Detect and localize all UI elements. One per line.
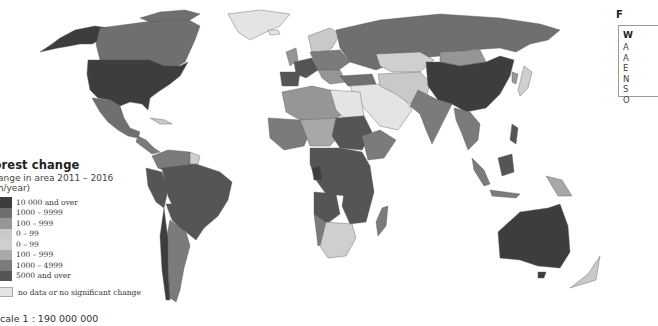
legend-swatch (0, 197, 13, 208)
legend-list: 10 000 and over 1000 – 9999 100 – 999 0 … (0, 197, 186, 281)
side-panel-title: F (616, 9, 623, 20)
legend-title: Forest change (0, 158, 186, 172)
region-java (490, 190, 520, 198)
legend-swatch (0, 271, 13, 282)
region-southeast-asia (454, 108, 480, 150)
region-tasmania (538, 272, 546, 278)
region-canada-islands (140, 10, 200, 22)
region-japan (518, 66, 532, 96)
legend-swatch (0, 229, 13, 240)
legend-item-label: 1000 – 9999 (16, 208, 63, 217)
legend-item: 1000 – 4999 (0, 260, 186, 271)
legend-subtitle-line1: Change in area 2011 – 2016 (0, 173, 186, 183)
legend-item: 1000 – 9999 (0, 208, 186, 219)
legend-item-label: 100 – 999 (16, 250, 53, 259)
legend-swatch (0, 250, 13, 261)
legend-item-label: 0 – 99 (16, 229, 39, 238)
side-panel-item: A (623, 42, 658, 53)
region-gabon (312, 166, 322, 180)
legend-item-label: 0 – 99 (16, 240, 39, 249)
legend-item: 100 – 999 (0, 218, 186, 229)
side-panel-item: O (623, 95, 658, 106)
legend-item: 10 000 and over (0, 197, 186, 208)
region-greenland (228, 10, 290, 40)
region-ethiopia-horn (362, 130, 396, 160)
legend-item: 0 – 99 (0, 239, 186, 250)
legend-item: 5000 and over (0, 271, 186, 282)
legend-item-label: 10 000 and over (16, 198, 78, 207)
legend-item-label: 100 – 999 (16, 219, 53, 228)
region-png (546, 176, 572, 196)
region-southern-africa (320, 222, 356, 258)
region-madagascar (376, 206, 388, 236)
region-iceland (268, 30, 280, 35)
legend-swatch (0, 218, 13, 229)
side-panel-item: E (623, 63, 658, 74)
legend-swatch (0, 208, 13, 219)
region-east-africa (342, 166, 374, 224)
legend-subtitle-line2: (km/year) (0, 183, 186, 193)
region-caribbean (150, 118, 172, 124)
region-kazakhstan (376, 52, 434, 72)
legend-no-data-label: no data or no significant change (18, 288, 141, 297)
region-korea (512, 72, 518, 84)
legend-item: 0 – 99 (0, 229, 186, 240)
legend-item: 100 – 999 (0, 250, 186, 261)
region-iberia (280, 72, 300, 86)
side-panel-item: S (623, 84, 658, 95)
map-scale: Scale 1 : 190 000 000 (0, 313, 98, 324)
region-guianas (190, 152, 200, 164)
region-new-zealand (570, 256, 600, 288)
legend-item-label: 1000 – 4999 (16, 261, 63, 270)
map-legend: Forest change Change in area 2011 – 2016… (0, 158, 186, 297)
region-philippines (510, 124, 518, 144)
region-sumatra (472, 158, 490, 186)
region-australia (498, 204, 570, 268)
legend-item-label: 5000 and over (16, 271, 71, 280)
side-panel-item: A (623, 53, 658, 64)
region-borneo (498, 154, 514, 176)
legend-no-data: no data or no significant change (0, 287, 186, 297)
legend-swatch-no-data (0, 287, 13, 297)
legend-swatch (0, 239, 13, 250)
legend-swatch (0, 260, 13, 271)
side-panel-box: W A A E N S O (618, 25, 658, 97)
side-panel-header: W (623, 30, 658, 42)
side-panel-item: N (623, 74, 658, 85)
region-mexico (92, 98, 140, 138)
region-turkey (340, 74, 376, 86)
region-central-america (136, 136, 160, 154)
